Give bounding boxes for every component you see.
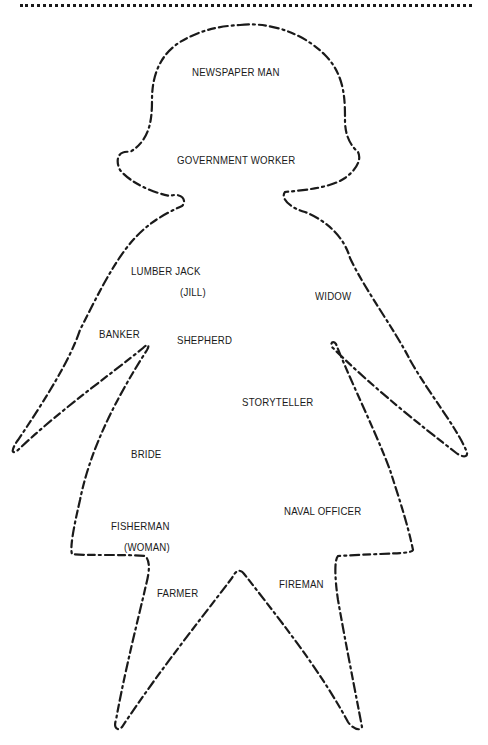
label-lumber-jack: LUMBER JACK: [131, 265, 201, 277]
label-widow: WIDOW: [315, 290, 351, 302]
figure-outline-path: [13, 24, 467, 729]
label-government-worker: GOVERNMENT WORKER: [177, 154, 295, 166]
label-bride: BRIDE: [131, 448, 161, 460]
label-banker: BANKER: [99, 328, 140, 340]
label-jill: (JILL): [180, 286, 206, 298]
label-woman: (WOMAN): [124, 541, 170, 553]
label-shepherd: SHEPHERD: [177, 334, 232, 346]
label-farmer: FARMER: [157, 587, 198, 599]
label-newspaper-man: NEWSPAPER MAN: [192, 66, 280, 78]
label-fireman: FIREMAN: [279, 578, 324, 590]
label-fisherman: FISHERMAN: [111, 520, 170, 532]
label-storyteller: STORYTELLER: [242, 396, 313, 408]
label-naval-officer: NAVAL OFFICER: [284, 505, 361, 517]
girl-figure-outline: [0, 0, 488, 745]
